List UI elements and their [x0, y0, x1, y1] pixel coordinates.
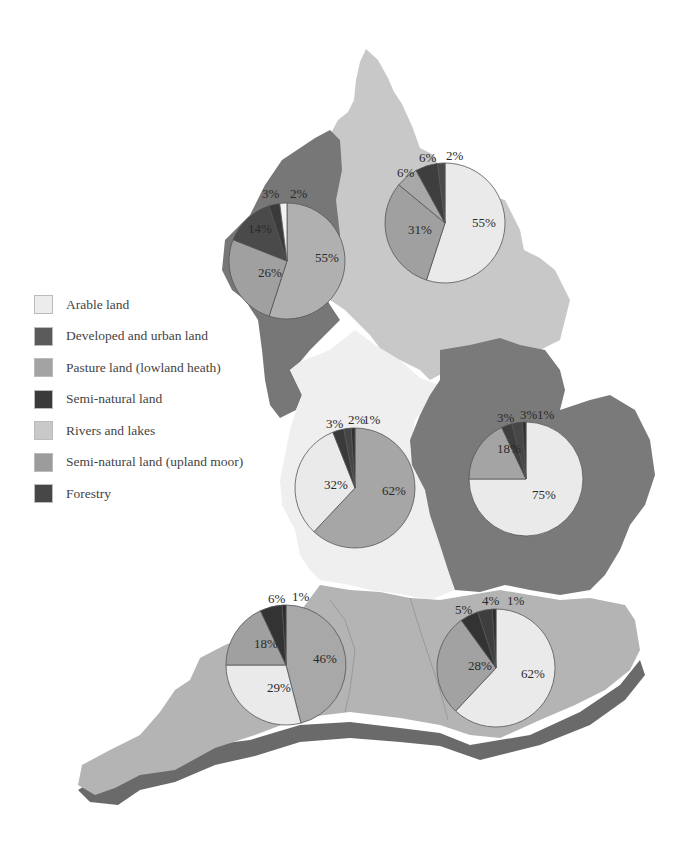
pie-slice-label: 1%: [507, 593, 525, 608]
legend-label: Semi-natural land (upland moor): [66, 454, 243, 470]
swatch-upland-moor: [34, 453, 53, 472]
swatch-developed: [34, 327, 53, 346]
pie-slice-label: 2%: [446, 148, 464, 163]
pie-slice-label: 18%: [497, 441, 521, 456]
pie-slice-label: 14%: [248, 221, 272, 236]
legend-item-developed: Developed and urban land: [34, 321, 243, 353]
legend-label: Rivers and lakes: [66, 423, 155, 439]
pie-slice-label: 1%: [363, 412, 381, 427]
pie-slice-label: 55%: [472, 215, 496, 230]
pie-slice-label: 4%: [482, 593, 500, 608]
pie-north-east: 55%31%6%6%2%: [385, 148, 505, 283]
pie-slice-label: 1%: [537, 407, 555, 422]
pie-slice-label: 75%: [532, 487, 556, 502]
swatch-semi-natural: [34, 390, 53, 409]
legend-label: Forestry: [66, 486, 111, 502]
legend-label: Semi-natural land: [66, 391, 162, 407]
pie-slice-label: 3%: [497, 410, 515, 425]
legend-label: Arable land: [66, 297, 129, 313]
region-south: [78, 585, 640, 795]
legend-label: Developed and urban land: [66, 328, 208, 344]
pie-slice-label: 32%: [324, 477, 348, 492]
pie-slice-label: 31%: [408, 222, 432, 237]
pie-slice-label: 5%: [455, 602, 473, 617]
legend-item-rivers: Rivers and lakes: [34, 415, 243, 447]
pie-slice-label: 62%: [382, 483, 406, 498]
pie-slice-label: 18%: [254, 636, 278, 651]
swatch-pasture: [34, 358, 53, 377]
pie-slice-label: 46%: [313, 651, 337, 666]
pie-slice-label: 1%: [292, 589, 310, 604]
legend-item-upland-moor: Semi-natural land (upland moor): [34, 447, 243, 479]
pie-slice-label: 6%: [397, 165, 415, 180]
pie-slice-label: 29%: [267, 680, 291, 695]
pie-slice-label: 3%: [262, 186, 280, 201]
pie-slice-label: 6%: [268, 591, 286, 606]
pie-slice-label: 26%: [258, 265, 282, 280]
legend-item-pasture: Pasture land (lowland heath): [34, 352, 243, 384]
pie-slice-label: 6%: [419, 150, 437, 165]
legend-label: Pasture land (lowland heath): [66, 360, 221, 376]
pie-slice-label: 62%: [521, 666, 545, 681]
legend-item-semi-natural: Semi-natural land: [34, 384, 243, 416]
pie-slice-label: 3%: [326, 416, 344, 431]
pie-slice-label: 28%: [468, 658, 492, 673]
pie-slice-label: 55%: [315, 250, 339, 265]
legend: Arable land Developed and urban land Pas…: [34, 289, 243, 510]
swatch-arable: [34, 295, 53, 314]
pie-slice-label: 2%: [290, 186, 308, 201]
legend-item-arable: Arable land: [34, 289, 243, 321]
swatch-forestry: [34, 484, 53, 503]
pie-slice-label: 3%: [520, 407, 538, 422]
swatch-rivers: [34, 421, 53, 440]
legend-item-forestry: Forestry: [34, 478, 243, 510]
